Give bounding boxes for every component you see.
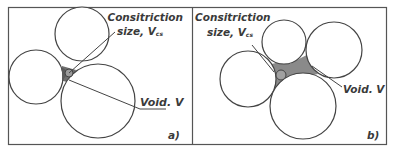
particle-circle-b-bottom: [270, 73, 336, 139]
constriction-label-a-line1: Consitriction: [107, 11, 183, 23]
packing-diagram-figure: Consitriction size, Vcs Void. V a) Consi…: [0, 0, 395, 154]
constriction-circle-b: [276, 70, 286, 80]
diagram-canvas: Consitriction size, Vcs Void. V a) Consi…: [0, 0, 395, 154]
panel-tag-a: a): [168, 129, 180, 141]
constriction-label-b-line1: Consitriction: [195, 11, 271, 23]
void-label-b: Void. V: [343, 83, 385, 95]
void-label-a: Void. V: [140, 96, 185, 109]
particle-circle-a-top: [55, 7, 109, 61]
panel-tag-b: b): [367, 129, 379, 141]
particle-circle-b-top: [262, 20, 306, 64]
particle-circle-b-left: [220, 51, 276, 107]
particle-circle-b-right: [306, 22, 362, 78]
particle-circle-a-left: [9, 50, 63, 104]
